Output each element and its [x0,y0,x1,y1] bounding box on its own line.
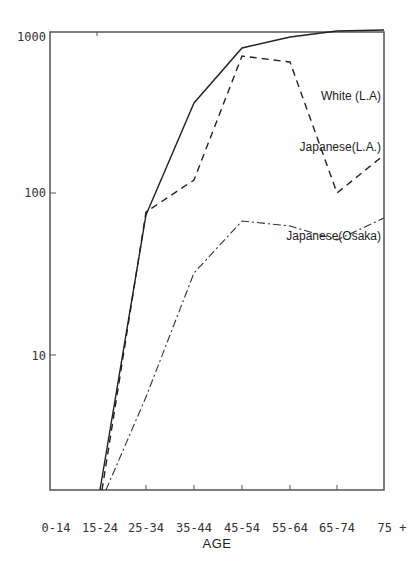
series-label-japanese-la: Japanese(L.A.) [300,140,381,154]
y-tick-label-10: 10 [32,349,46,363]
line-chart: 1000 100 10 0-14 15-24 25-34 35-44 45-54… [0,0,420,574]
x-tick-label: 45-54 [224,521,260,535]
x-tick-label: 35-44 [176,521,212,535]
x-tick-label: 15-24 [82,521,118,535]
x-axis-title: AGE [203,536,232,551]
series-label-white-la: White (L.A) [321,89,381,103]
x-tick-label: 75 + [378,521,407,535]
x-axis: 0-14 15-24 25-34 35-44 45-54 55-64 65-74… [42,485,407,551]
y-tick-label-1000: 1000 [17,30,46,44]
x-tick-label: 65-74 [319,521,355,535]
y-tick-label-100: 100 [24,186,46,200]
series-japanese-osaka-line [106,218,384,490]
series-label-japanese-osaka: Japanese(Osaka) [286,229,381,243]
x-tick-label: 55-64 [272,521,308,535]
series-japanese-la-line [102,56,384,490]
x-tick-label: 0-14 [42,521,71,535]
x-tick-label: 25-34 [128,521,164,535]
